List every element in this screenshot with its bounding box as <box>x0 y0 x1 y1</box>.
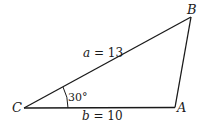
side-c-line <box>175 17 191 108</box>
triangle-diagram: C A B a = 13 b = 10 30° <box>0 0 202 125</box>
angle-c-label: 30° <box>68 92 88 103</box>
side-b-variable: b <box>82 109 90 123</box>
vertex-label-c: C <box>12 101 22 114</box>
side-a-value: = 13 <box>90 46 123 60</box>
vertex-label-a: A <box>177 101 186 114</box>
triangle-figure <box>0 0 202 125</box>
side-a-label: a = 13 <box>83 47 123 59</box>
side-b-line <box>24 108 175 109</box>
vertex-label-b: B <box>187 3 197 16</box>
side-b-label: b = 10 <box>82 110 123 122</box>
side-a-line <box>24 17 191 108</box>
side-b-value: = 10 <box>90 109 123 123</box>
